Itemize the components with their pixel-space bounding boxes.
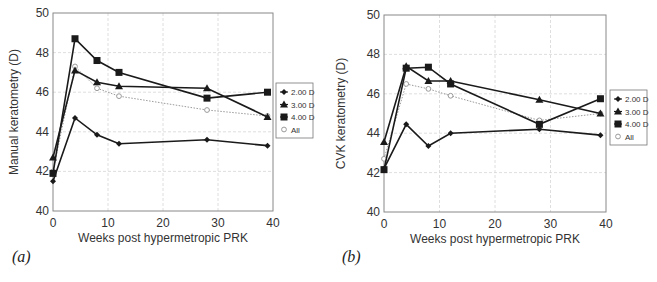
square-marker-icon <box>264 89 271 96</box>
y-tick-label: 50 <box>367 8 381 22</box>
diamond-marker-icon <box>204 137 210 143</box>
legend-label: All <box>625 133 634 142</box>
y-tick-label: 42 <box>367 166 381 180</box>
triangle-marker-icon <box>380 138 388 145</box>
square-marker-icon <box>597 95 604 102</box>
x-tick-label: 30 <box>211 216 225 230</box>
square-marker-icon <box>50 170 57 177</box>
x-tick-label: 0 <box>50 216 57 230</box>
legend-label: 3.00 D <box>291 101 315 110</box>
square-marker-icon <box>281 114 288 121</box>
y-tick-label: 46 <box>367 87 381 101</box>
gridlines <box>384 15 606 212</box>
chart-panel-a: 404244464850010203040Weeks post hypermet… <box>0 0 330 282</box>
square-marker-icon <box>425 64 432 71</box>
x-tick-label: 20 <box>156 216 170 230</box>
legend-label: 2.00 D <box>291 88 315 97</box>
series-line <box>53 70 268 157</box>
panel-label-b: (b) <box>342 248 361 266</box>
square-marker-icon <box>615 121 622 128</box>
x-tick-label: 20 <box>488 217 502 231</box>
series-4-00-d <box>381 64 604 173</box>
series-line <box>53 39 268 174</box>
open-circle-marker-icon <box>426 86 431 91</box>
legend-label: 3.00 D <box>625 108 649 117</box>
open-circle-marker-icon <box>616 134 621 139</box>
open-circle-marker-icon <box>404 82 409 87</box>
diamond-marker-icon <box>597 132 603 138</box>
series-4-00-d <box>50 35 272 177</box>
y-axis-title: CVK keratometry (D) <box>334 58 348 169</box>
panel-label-a: (a) <box>12 248 31 266</box>
series-line <box>384 67 600 169</box>
x-tick-label: 0 <box>381 217 388 231</box>
open-circle-marker-icon <box>95 86 100 91</box>
y-tick-label: 44 <box>36 125 50 139</box>
legend-label: 2.00 D <box>625 95 649 104</box>
square-marker-icon <box>447 80 454 87</box>
x-tick-label: 40 <box>599 217 613 231</box>
series-line <box>53 66 268 171</box>
x-axis-title: Weeks post hypermetropic PRK <box>410 232 580 246</box>
legend-label: 4.00 D <box>625 120 649 129</box>
open-circle-marker-icon <box>117 94 122 99</box>
x-tick-label: 10 <box>101 216 115 230</box>
x-tick-label: 10 <box>433 217 447 231</box>
y-tick-label: 44 <box>367 126 381 140</box>
open-circle-marker-icon <box>205 108 210 113</box>
y-tick-label: 40 <box>36 204 50 218</box>
chart-panel-b: 404244464850010203040Weeks post hypermet… <box>330 0 657 282</box>
y-axis-title: Manual keratometry (D) <box>7 49 21 175</box>
legend: 2.00 D3.00 D4.00 DAll <box>276 83 315 138</box>
series-2-00-d <box>381 121 603 171</box>
plot-frame <box>53 13 273 211</box>
x-tick-label: 30 <box>544 217 558 231</box>
diamond-marker-icon <box>50 178 56 184</box>
legend: 2.00 D3.00 D4.00 DAll <box>610 90 649 145</box>
open-circle-marker-icon <box>282 127 287 132</box>
x-axis-title: Weeks post hypermetropic PRK <box>78 231 248 245</box>
triangle-marker-icon <box>93 78 101 85</box>
y-tick-label: 48 <box>367 47 381 61</box>
y-tick-label: 48 <box>36 46 50 60</box>
legend-label: 4.00 D <box>291 113 315 122</box>
square-marker-icon <box>204 95 211 102</box>
open-circle-marker-icon <box>448 93 453 98</box>
legend-label: All <box>291 126 300 135</box>
y-tick-label: 42 <box>36 164 50 178</box>
square-marker-icon <box>116 69 123 76</box>
x-tick-label: 40 <box>266 216 280 230</box>
chart-b-svg: 404244464850010203040Weeks post hypermet… <box>330 0 657 282</box>
series-line <box>384 84 600 159</box>
series-all <box>51 64 270 174</box>
series-2-00-d <box>50 115 271 184</box>
y-tick-label: 46 <box>36 85 50 99</box>
series-3-00-d <box>49 66 272 160</box>
square-marker-icon <box>381 166 388 173</box>
square-marker-icon <box>94 57 101 64</box>
square-marker-icon <box>403 65 410 72</box>
series-line <box>384 124 600 168</box>
diamond-marker-icon <box>265 143 271 149</box>
y-tick-label: 40 <box>367 205 381 219</box>
chart-a-svg: 404244464850010203040Weeks post hypermet… <box>0 0 330 282</box>
square-marker-icon <box>72 35 79 42</box>
square-marker-icon <box>536 121 543 128</box>
diamond-marker-icon <box>116 141 122 147</box>
gridlines <box>53 13 273 211</box>
y-tick-label: 50 <box>36 6 50 20</box>
